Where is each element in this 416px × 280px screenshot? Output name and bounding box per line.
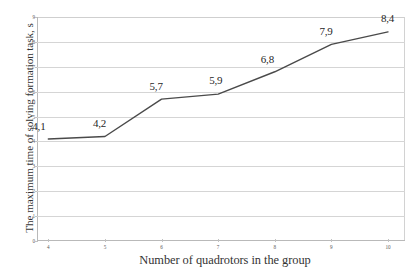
x-tick-mark <box>48 239 49 242</box>
data-point-label: 6,8 <box>261 53 274 65</box>
gridline <box>37 141 405 142</box>
gridline <box>37 191 405 192</box>
data-point-label: 5,9 <box>209 74 222 86</box>
x-tick-mark <box>388 239 389 242</box>
gridline <box>37 67 405 68</box>
y-tick-label: 3 <box>19 163 35 169</box>
y-tick-label: 6 <box>19 89 35 95</box>
data-point-label: 4,2 <box>93 117 106 129</box>
data-point-label: 8,4 <box>381 12 394 24</box>
x-tick-label: 10 <box>378 244 398 250</box>
x-tick-label: 6 <box>152 244 172 250</box>
plot-border-bottom <box>37 240 405 241</box>
x-tick-mark <box>275 239 276 242</box>
y-tick-label: 0 <box>19 238 35 244</box>
x-tick-label: 7 <box>208 244 228 250</box>
x-tick-mark <box>218 239 219 242</box>
gridline <box>37 42 405 43</box>
x-axis-tick-labels: 45678910 <box>37 242 405 252</box>
x-tick-label: 9 <box>321 244 341 250</box>
y-tick-label: 8 <box>19 39 35 45</box>
gridline <box>37 166 405 167</box>
plot-border-right <box>404 17 405 241</box>
y-tick-label: 1 <box>19 213 35 219</box>
y-tick-label: 9 <box>19 14 35 20</box>
gridline <box>37 216 405 217</box>
y-tick-label: 2 <box>19 188 35 194</box>
gridline <box>37 92 405 93</box>
y-tick-label: 4 <box>19 138 35 144</box>
y-tick-label: 5 <box>19 114 35 120</box>
data-point-label: 5,7 <box>150 80 163 92</box>
data-point-label: 7,9 <box>319 25 332 37</box>
x-tick-mark <box>105 239 106 242</box>
plot-border-top <box>37 17 405 18</box>
x-tick-label: 4 <box>38 244 58 250</box>
x-tick-mark <box>162 239 163 242</box>
y-tick-label: 7 <box>19 64 35 70</box>
x-tick-label: 8 <box>265 244 285 250</box>
x-axis-title: Number of quadrotors in the group <box>60 253 390 268</box>
x-tick-label: 5 <box>95 244 115 250</box>
line-chart: The maximum time of solving formation ta… <box>0 0 416 280</box>
x-tick-mark <box>331 239 332 242</box>
data-point-label: 4,1 <box>32 120 45 132</box>
